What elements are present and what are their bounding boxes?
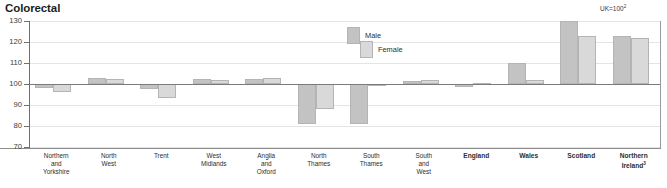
x-axis-category-line: South: [345, 152, 398, 160]
y-axis-tick-label: 130: [0, 17, 22, 25]
page-title: Colorectal: [5, 2, 60, 14]
x-axis-category-line: West: [398, 168, 451, 176]
y-tick-110: [24, 63, 30, 64]
y-tick-130: [24, 21, 30, 22]
x-axis-category-label: Scotland: [555, 152, 608, 160]
x-axis-category-label: Wales: [503, 152, 556, 160]
bar-female: [578, 36, 596, 84]
x-axis-labels: NorthernandYorkshireNorthWestTrentWestMi…: [30, 152, 660, 188]
x-axis-category-label: NorthWest: [83, 152, 136, 168]
bar-male: [613, 36, 631, 84]
y-axis-tick-label: 110: [0, 59, 22, 67]
bar-female: [631, 38, 649, 84]
y-axis-tick-label: 80: [0, 122, 22, 130]
y-axis-tick-label: 100: [0, 80, 22, 88]
x-axis-category-line: Northern: [608, 152, 661, 160]
bar-female: [316, 84, 334, 109]
x-axis-category-line: North: [293, 152, 346, 160]
x-axis-category-line: Northern: [30, 152, 83, 160]
bar-male: [350, 84, 368, 124]
x-axis-category-line: West: [83, 160, 136, 168]
uk-index-note-footnote: 2: [624, 4, 627, 9]
plot-right-spine: [660, 21, 661, 148]
x-axis-category-line: England: [450, 152, 503, 160]
x-axis-category-label: AngliaandOxford: [240, 152, 293, 177]
x-axis-rule: [0, 148, 661, 149]
x-axis-category-line: Scotland: [555, 152, 608, 160]
x-axis-category-label: WestMidlands: [188, 152, 241, 168]
y-axis-tick-label: 120: [0, 38, 22, 46]
x-axis-category-line: Oxford: [240, 168, 293, 176]
y-tick-70: [24, 147, 30, 148]
x-axis-category-label: NorthernandYorkshire: [30, 152, 83, 177]
bar-male: [560, 21, 578, 84]
x-axis-category-line: and: [30, 160, 83, 168]
legend-label-female: Female: [378, 45, 403, 54]
legend-swatch-male: [347, 27, 360, 44]
x-axis-category-label: SouthThames: [345, 152, 398, 168]
y-axis-tick-label: 70: [0, 143, 22, 151]
bar-female: [53, 84, 71, 92]
x-axis-category-line: South: [398, 152, 451, 160]
bar-male: [298, 84, 316, 124]
x-axis-category-line: Thames: [345, 160, 398, 168]
x-axis-category-line: North: [83, 152, 136, 160]
bar-female: [158, 84, 176, 98]
y-tick-90: [24, 105, 30, 106]
bar-male: [508, 63, 526, 84]
plot-area: [30, 21, 660, 147]
x-axis-category-line: Yorkshire: [30, 168, 83, 176]
x-axis-category-line: Thames: [293, 160, 346, 168]
x-axis-category-line: Ireland3: [608, 160, 661, 170]
x-axis-category-line: West: [188, 152, 241, 160]
uk-index-note: UK=1002: [600, 4, 626, 12]
x-axis-category-line: Anglia: [240, 152, 293, 160]
x-axis-category-footnote: 3: [643, 161, 646, 166]
colorectal-bar-chart: Colorectal UK=1002 130120110100908070 No…: [0, 0, 667, 188]
x-axis-category-label: Trent: [135, 152, 188, 160]
x-axis-category-label: NorthThames: [293, 152, 346, 168]
x-axis-category-line: and: [240, 160, 293, 168]
x-axis-category-line: and: [398, 160, 451, 168]
x-axis-category-line: Wales: [503, 152, 556, 160]
y-tick-120: [24, 42, 30, 43]
uk-index-note-text: UK=100: [600, 5, 624, 12]
gridline-70: [30, 147, 660, 148]
x-axis-category-label: SouthandWest: [398, 152, 451, 177]
legend-swatch-female: [360, 41, 373, 58]
x-axis-category-label: England: [450, 152, 503, 160]
y-axis-tick-label: 90: [0, 101, 22, 109]
x-axis-category-line: Trent: [135, 152, 188, 160]
legend-label-male: Male: [365, 31, 381, 40]
x-axis-category-line: Midlands: [188, 160, 241, 168]
baseline-100: [30, 84, 660, 85]
x-axis-category-label: NorthernIreland3: [608, 152, 661, 171]
y-tick-80: [24, 126, 30, 127]
